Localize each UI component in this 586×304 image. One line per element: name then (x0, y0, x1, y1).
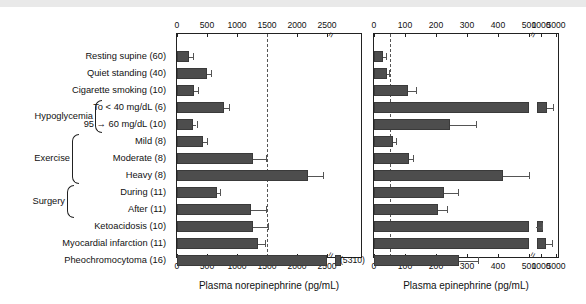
axis-tick-label: 5000 (546, 20, 565, 30)
error-bar-cap (386, 53, 387, 60)
panel-epinephrine: 0010010020020030030040040050050010001000… (373, 33, 559, 258)
category-label: After (11) (128, 201, 166, 218)
group-brace-surgery (67, 185, 74, 218)
bar-row (374, 167, 558, 184)
error-bar (408, 91, 416, 92)
axis-title-epinephrine: Plasma epinephrine (pg/mL) (373, 280, 559, 291)
bar-row (374, 201, 558, 218)
axis-tick-label: 1500 (257, 20, 276, 30)
bar (374, 255, 459, 266)
bar (177, 119, 193, 130)
bar-row (177, 201, 361, 218)
bar (177, 68, 207, 79)
error-bar-cap (552, 240, 553, 247)
bar-row (374, 184, 558, 201)
bar-row (374, 82, 558, 99)
bar (177, 187, 217, 198)
error-bar (450, 125, 476, 126)
error-bar-cap (478, 257, 479, 264)
group-brace-hypoglycemia (95, 100, 102, 133)
bar (374, 204, 438, 215)
error-bar-cap (447, 206, 448, 213)
axis-tick (207, 33, 208, 37)
bar (177, 255, 327, 266)
group-label-surgery: Surgery (0, 193, 65, 210)
axis-tick-label: 200 (429, 20, 443, 30)
bar-row (177, 48, 361, 65)
axis-tick-label: 0 (175, 20, 180, 30)
error-bar-cap (542, 223, 543, 230)
axis-tick-label: 100 (398, 20, 412, 30)
bar-row (177, 235, 361, 252)
bar-row (177, 218, 361, 235)
group-brace-exercise (72, 134, 79, 184)
axis-tick (297, 33, 298, 37)
panel-norepinephrine: 0050050010001000150015002000200025002500… (176, 33, 362, 258)
error-bar-cap (211, 70, 212, 77)
category-label: Quiet standing (40) (87, 65, 166, 82)
bar (177, 204, 251, 215)
error-bar (253, 227, 268, 228)
bar (374, 187, 444, 198)
error-bar (258, 244, 265, 245)
error-bar-cap (207, 138, 208, 145)
bar-row (177, 133, 361, 150)
error-bar (503, 176, 529, 177)
axis-tick (556, 33, 557, 37)
axis-tick (374, 33, 375, 37)
category-label: Cigarette smoking (10) (72, 82, 166, 99)
error-bar (253, 159, 267, 160)
error-bar-cap (229, 104, 230, 111)
bar-row (177, 82, 361, 99)
figure-root: Resting supine (60) Quiet standing (40) … (0, 0, 586, 304)
category-label-column: Resting supine (60) Quiet standing (40) … (0, 48, 172, 252)
bar (177, 238, 258, 249)
top-banner-strip (0, 0, 586, 7)
error-bar-cap (396, 138, 397, 145)
bar-row (374, 150, 558, 167)
bar-row (177, 99, 361, 116)
bar-continuation-segment (537, 102, 547, 113)
axis-tick (467, 33, 468, 37)
group-label-hypoglycemia: Hypoglycemia (10, 108, 93, 125)
bar (177, 221, 253, 232)
error-bar (459, 261, 478, 262)
category-label: During (11) (120, 184, 166, 201)
bar-row (374, 218, 558, 235)
category-label: Ketoacidosis (10) (94, 218, 166, 235)
axis-tick-label: 2000 (287, 20, 306, 30)
error-bar-cap (413, 155, 414, 162)
axis-tick-label: 0 (372, 20, 377, 30)
axis-tick-label: 2500 (317, 20, 336, 30)
error-bar (251, 210, 266, 211)
bar (374, 51, 383, 62)
bar (374, 136, 393, 147)
bar-row (374, 48, 558, 65)
bar-row (177, 150, 361, 167)
bar-row (374, 235, 558, 252)
axis-tick (436, 33, 437, 37)
bar-row (177, 167, 361, 184)
bar-continuation-segment (537, 238, 546, 249)
bar-row (374, 99, 558, 116)
category-label: Heavy (8) (126, 167, 166, 184)
axis-tick (177, 33, 178, 37)
bar (177, 136, 203, 147)
bar (374, 68, 387, 79)
bar (374, 119, 450, 130)
plot-area-epinephrine: 0010010020020030030040040050050010001000… (374, 33, 558, 258)
bar (374, 102, 529, 113)
bar-row (177, 116, 361, 133)
error-bar-cap (265, 240, 266, 247)
axis-tick-label: 400 (491, 20, 505, 30)
axis-tick-label: 1000 (227, 20, 246, 30)
error-bar-cap (416, 87, 417, 94)
bar-row (374, 133, 558, 150)
axis-title-norepinephrine: Plasma norepinephrine (pg/mL) (176, 280, 362, 291)
axis-tick (237, 33, 238, 37)
error-bar-cap (476, 121, 477, 128)
category-label: Myocardial infarction (11) (62, 235, 166, 252)
error-bar-cap (266, 155, 267, 162)
error-bar-cap (553, 104, 554, 111)
axis-tick (541, 33, 542, 37)
